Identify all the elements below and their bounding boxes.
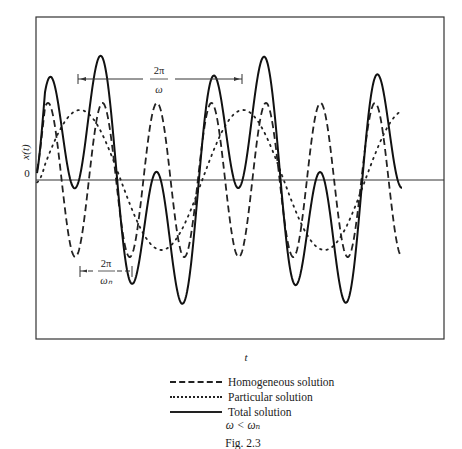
natural-period-denominator: ωₙ xyxy=(100,275,112,286)
dotted-line-swatch-icon xyxy=(170,396,222,398)
forcing-period-numerator: 2π xyxy=(154,65,165,76)
legend-item-total: Total solution xyxy=(170,405,291,419)
natural-period-annotation: 2π ωₙ xyxy=(80,258,132,286)
frequency-condition: ω < ωₙ xyxy=(12,418,462,432)
dashed-line-swatch-icon xyxy=(170,381,222,383)
y-axis-label: x(t) xyxy=(19,144,32,161)
legend-label: Homogeneous solution xyxy=(228,376,334,388)
legend-item-particular: Particular solution xyxy=(170,390,313,404)
natural-period-numerator: 2π xyxy=(101,258,112,269)
legend-label: Total solution xyxy=(228,406,291,418)
legend-label: Particular solution xyxy=(228,391,313,403)
legend-item-homogeneous: Homogeneous solution xyxy=(170,375,334,389)
x-axis-label: t xyxy=(244,351,248,363)
forcing-period-denominator: ω xyxy=(155,84,162,95)
figure-caption: Fig. 2.3 xyxy=(12,437,462,449)
y-zero-tick-label: 0 xyxy=(24,167,30,179)
solid-line-swatch-icon xyxy=(170,411,222,413)
